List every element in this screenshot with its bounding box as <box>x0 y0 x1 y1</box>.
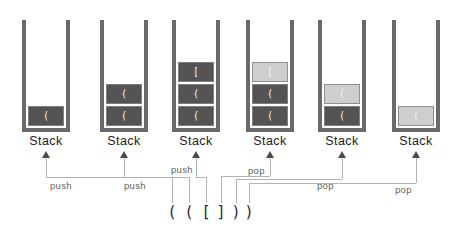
char4-drop-line <box>221 176 222 203</box>
stack-container-2: ( ( <box>100 20 148 132</box>
stack5-item-top-highlighted: ( <box>324 84 360 104</box>
sequence-char-1: ( <box>164 203 180 221</box>
char5-drop-line <box>236 179 237 203</box>
stack6-arrow-shaft <box>416 158 417 183</box>
sequence-char-6: ) <box>241 203 257 221</box>
char1-drop-line <box>172 177 173 203</box>
stack2-caption: Stack <box>94 134 154 148</box>
stack1-arrow-shaft <box>46 158 47 177</box>
push2-label: push <box>124 180 146 191</box>
stack4-item-top-highlighted: [ <box>252 62 288 82</box>
stack-container-1: ( <box>22 20 70 132</box>
stack-container-3: [ ( ( <box>172 20 220 132</box>
stack4-item-middle: ( <box>252 84 288 104</box>
stack4-caption: Stack <box>240 134 300 148</box>
char3-drop-line <box>206 177 207 203</box>
stack6-item-highlighted: ( <box>398 106 434 126</box>
char6-drop-line <box>249 183 250 203</box>
stack-container-6: ( <box>392 20 440 132</box>
push2-connector-line <box>124 177 189 178</box>
stack6-caption: Stack <box>386 134 446 148</box>
stack1-up-arrow-icon <box>42 151 50 158</box>
stack5-caption: Stack <box>312 134 372 148</box>
push3-label: push <box>171 164 193 175</box>
sequence-char-3: [ <box>198 203 214 221</box>
stack2-item-top: ( <box>106 84 142 104</box>
stack2-item-bottom: ( <box>106 106 142 126</box>
stack2-up-arrow-icon <box>120 151 128 158</box>
stack-push-pop-diagram: ( ( ( [ ( ( [ ( ( ( ( ( Stack Stack Stac… <box>0 0 458 239</box>
pop1-connector-line <box>221 176 270 177</box>
pop3-label: pop <box>395 184 412 195</box>
stack4-arrow-shaft <box>270 158 271 176</box>
stack2-arrow-shaft <box>124 158 125 177</box>
pop2-label: pop <box>317 180 334 191</box>
stack1-caption: Stack <box>16 134 76 148</box>
stack-container-5: ( ( <box>318 20 366 132</box>
stack4-up-arrow-icon <box>266 151 274 158</box>
push3-connector-line <box>196 177 206 178</box>
stack4-item-bottom: ( <box>252 106 288 126</box>
sequence-char-2: ( <box>181 203 197 221</box>
stack3-arrow-shaft <box>196 158 197 177</box>
push1-label: push <box>50 180 72 191</box>
stack3-caption: Stack <box>166 134 226 148</box>
char2-drop-line <box>189 177 190 203</box>
stack3-item-middle: ( <box>178 84 214 104</box>
stack5-arrow-shaft <box>342 158 343 179</box>
stack-container-4: [ ( ( <box>246 20 294 132</box>
pop1-label: pop <box>248 165 265 176</box>
stack3-item-top: [ <box>178 62 214 82</box>
stack3-up-arrow-icon <box>192 151 200 158</box>
stack1-item-bottom: ( <box>28 106 64 126</box>
stack3-item-bottom: ( <box>178 106 214 126</box>
sequence-char-4: ] <box>213 203 229 221</box>
stack5-up-arrow-icon <box>338 151 346 158</box>
stack5-item-bottom: ( <box>324 106 360 126</box>
stack6-up-arrow-icon <box>412 151 420 158</box>
